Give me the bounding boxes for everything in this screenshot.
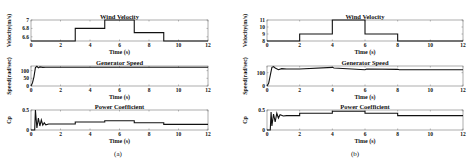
y-tick-label: 6.6 bbox=[22, 34, 29, 40]
y-tick-label: 0 bbox=[26, 127, 29, 133]
x-tick-label: 10 bbox=[428, 87, 434, 93]
x-tick-label: 2 bbox=[59, 131, 62, 137]
x-tick-label: 6 bbox=[118, 87, 121, 93]
y-tick-label: 11 bbox=[260, 17, 265, 23]
x-tick-label: 10 bbox=[176, 42, 182, 48]
x-tick-label: 0 bbox=[30, 87, 33, 93]
x-tick-label: 8 bbox=[396, 87, 399, 93]
y-tick-label: 7 bbox=[26, 17, 29, 23]
wind-velocity-b-xlabel: Time (s) bbox=[354, 49, 375, 56]
x-tick-label: 12 bbox=[205, 131, 211, 137]
generator-speed-b-ylabel: Speed(rad/sec) bbox=[242, 57, 249, 95]
x-tick-label: 10 bbox=[428, 131, 434, 137]
power-coefficient-a-axes bbox=[31, 110, 208, 130]
y-tick-label: 0 bbox=[262, 127, 265, 133]
x-tick-label: 2 bbox=[59, 42, 62, 48]
wind-velocity-a-ylabel: Velocity(m/s) bbox=[6, 14, 13, 47]
y-tick-label: 0.5 bbox=[22, 107, 29, 113]
y-tick-label: 100 bbox=[21, 68, 30, 74]
generator-speed-a-title: Generator Speed bbox=[96, 59, 143, 66]
x-tick-label: 10 bbox=[176, 87, 182, 93]
x-tick-label: 0 bbox=[266, 87, 269, 93]
y-tick-label: 9 bbox=[262, 31, 265, 37]
generator-speed-b-xlabel: Time (s) bbox=[354, 94, 375, 101]
x-tick-label: 8 bbox=[396, 131, 399, 137]
power-coefficient-a-title: Power Coefficient bbox=[95, 103, 145, 110]
wind-velocity-b-ylabel: Velocity(m/s) bbox=[242, 14, 249, 47]
x-tick-label: 4 bbox=[331, 42, 334, 48]
x-tick-label: 12 bbox=[205, 87, 211, 93]
generator-speed-a-ylabel: Speed(rad/sec) bbox=[6, 57, 13, 95]
y-tick-label: 6.8 bbox=[22, 25, 29, 31]
x-tick-label: 12 bbox=[205, 42, 211, 48]
generator-speed-a-axes bbox=[31, 66, 208, 86]
x-tick-label: 8 bbox=[148, 42, 151, 48]
power-coefficient-b-ylabel: Cp bbox=[242, 116, 248, 124]
x-tick-label: 6 bbox=[118, 131, 121, 137]
x-tick-label: 6 bbox=[364, 42, 367, 48]
wind-velocity-a-title: Wind Velocity bbox=[100, 13, 140, 20]
power-coefficient-b-xlabel: Time (s) bbox=[354, 138, 375, 145]
x-tick-label: 12 bbox=[460, 42, 466, 48]
x-tick-label: 0 bbox=[266, 42, 269, 48]
x-tick-label: 6 bbox=[364, 131, 367, 137]
y-tick-label: 50 bbox=[24, 75, 30, 81]
power-coefficient-b-title: Power Coefficient bbox=[340, 103, 390, 110]
panel-caption-b: (b) bbox=[351, 150, 360, 158]
y-tick-label: 0 bbox=[26, 83, 29, 89]
wind-velocity-a-xlabel: Time (s) bbox=[109, 49, 130, 56]
x-tick-label: 4 bbox=[89, 87, 92, 93]
x-tick-label: 0 bbox=[30, 42, 33, 48]
x-tick-label: 2 bbox=[298, 87, 301, 93]
x-tick-label: 2 bbox=[298, 42, 301, 48]
x-tick-label: 12 bbox=[460, 87, 466, 93]
y-tick-label: 10 bbox=[260, 24, 266, 30]
x-tick-label: 0 bbox=[266, 131, 269, 137]
x-tick-label: 4 bbox=[89, 42, 92, 48]
x-tick-label: 12 bbox=[460, 131, 466, 137]
power-coefficient-a-xlabel: Time (s) bbox=[109, 138, 130, 145]
y-tick-label: 0 bbox=[262, 83, 265, 89]
x-tick-label: 8 bbox=[148, 131, 151, 137]
x-tick-label: 10 bbox=[428, 42, 434, 48]
x-tick-label: 6 bbox=[364, 87, 367, 93]
y-tick-label: 0.5 bbox=[258, 107, 265, 113]
wind-velocity-b-title: Wind Velocity bbox=[345, 13, 385, 20]
y-tick-label: 100 bbox=[257, 70, 266, 76]
generator-speed-b-title: Generator Speed bbox=[342, 59, 389, 66]
panel-caption-a: (a) bbox=[114, 150, 122, 158]
x-tick-label: 10 bbox=[176, 131, 182, 137]
x-tick-label: 4 bbox=[331, 87, 334, 93]
x-tick-label: 2 bbox=[59, 87, 62, 93]
x-tick-label: 8 bbox=[148, 87, 151, 93]
generator-speed-a-xlabel: Time (s) bbox=[109, 94, 130, 101]
x-tick-label: 4 bbox=[331, 131, 334, 137]
x-tick-label: 6 bbox=[118, 42, 121, 48]
x-tick-label: 4 bbox=[89, 131, 92, 137]
x-tick-label: 2 bbox=[298, 131, 301, 137]
power-coefficient-a-ylabel: Cp bbox=[6, 116, 12, 124]
x-tick-label: 8 bbox=[396, 42, 399, 48]
y-tick-label: 8 bbox=[262, 38, 265, 44]
figure: Wind Velocity0246810126.66.87Time (s)Vel… bbox=[0, 0, 475, 166]
x-tick-label: 0 bbox=[30, 131, 33, 137]
wind-velocity-a-axes bbox=[31, 20, 208, 41]
